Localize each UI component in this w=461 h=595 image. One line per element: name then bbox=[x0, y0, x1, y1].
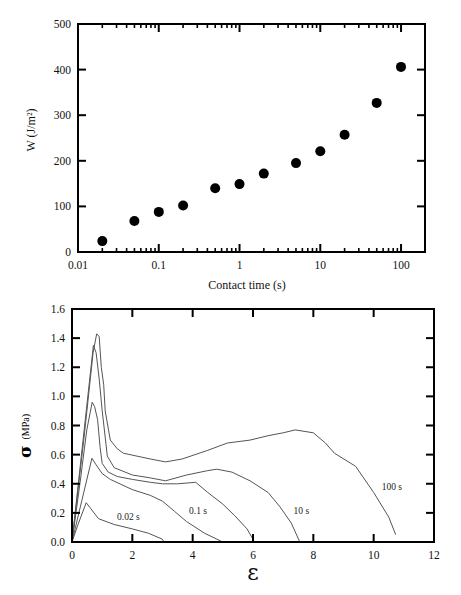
axes-box bbox=[78, 24, 425, 252]
curve-line bbox=[72, 503, 164, 542]
data-point bbox=[396, 62, 406, 72]
data-point bbox=[259, 169, 269, 179]
curve-line bbox=[72, 458, 223, 542]
scatter-series bbox=[97, 62, 406, 246]
curve-label: 0.1 s bbox=[189, 506, 207, 516]
y-tick-label: 1.6 bbox=[51, 303, 66, 315]
x-tick-label: 0.1 bbox=[152, 259, 167, 271]
y-tick-label: 1.4 bbox=[51, 332, 66, 344]
curve-line bbox=[72, 402, 255, 542]
y-tick-label: 0.2 bbox=[51, 507, 66, 519]
y-tick-label: 400 bbox=[54, 64, 72, 76]
x-tick-label: 10 bbox=[315, 259, 327, 271]
x-tick-label: 2 bbox=[129, 549, 135, 561]
axis-ticks bbox=[72, 309, 434, 542]
y-axis-label: σ (MPa) bbox=[15, 414, 35, 458]
curve-label: 0.02 s bbox=[117, 512, 140, 522]
curve-line bbox=[72, 334, 396, 542]
y-tick-label: 500 bbox=[54, 18, 72, 30]
x-tick-label: 10 bbox=[368, 549, 380, 561]
tick-labels: 01002003004005000.010.1110100 bbox=[54, 18, 410, 271]
data-point bbox=[372, 98, 382, 108]
data-point bbox=[129, 216, 139, 226]
data-point bbox=[97, 236, 107, 246]
bottom-chart-stress-strain: 0.02 s0.1 s10 s100 s 0.00.20.40.60.81.01… bbox=[15, 303, 440, 585]
y-axis-label: W (J/m²) bbox=[24, 108, 38, 151]
plot-frame bbox=[78, 24, 425, 252]
axes-box bbox=[72, 309, 434, 542]
data-point bbox=[235, 179, 245, 189]
y-tick-label: 0.4 bbox=[51, 478, 66, 490]
data-point bbox=[178, 201, 188, 211]
x-tick-label: 8 bbox=[310, 549, 316, 561]
axis-ticks bbox=[78, 24, 425, 252]
curve-label: 10 s bbox=[294, 506, 310, 516]
line-series: 0.02 s0.1 s10 s100 s bbox=[72, 334, 402, 542]
y-tick-label: 0.6 bbox=[51, 449, 66, 461]
x-tick-label: 1 bbox=[237, 259, 243, 271]
plot-frame bbox=[72, 309, 434, 542]
x-tick-label: 4 bbox=[190, 549, 196, 561]
data-point bbox=[210, 183, 220, 193]
data-point bbox=[291, 158, 301, 168]
y-axis-label-unit: (MPa) bbox=[20, 414, 32, 440]
top-chart-work-vs-contact-time: 01002003004005000.010.1110100 Contact ti… bbox=[24, 18, 425, 292]
figure: 01002003004005000.010.1110100 Contact ti… bbox=[0, 0, 461, 595]
y-tick-label: 1.0 bbox=[51, 390, 66, 402]
y-tick-label: 0.0 bbox=[51, 536, 66, 548]
y-tick-label: 1.2 bbox=[51, 361, 66, 373]
data-point bbox=[315, 146, 325, 156]
curve-line bbox=[72, 345, 300, 542]
x-axis-label: Contact time (s) bbox=[208, 278, 285, 292]
y-axis-label-symbol: σ bbox=[15, 446, 35, 459]
data-point bbox=[154, 207, 164, 217]
y-tick-label: 0.8 bbox=[51, 420, 66, 432]
x-tick-label: 0 bbox=[69, 549, 75, 561]
y-tick-label: 200 bbox=[54, 155, 72, 167]
x-tick-label: 12 bbox=[428, 549, 440, 561]
curve-label: 100 s bbox=[382, 482, 403, 492]
x-tick-label: 100 bbox=[392, 259, 410, 271]
y-tick-label: 100 bbox=[54, 200, 72, 212]
x-axis-label: ε bbox=[247, 560, 258, 585]
y-tick-label: 0 bbox=[65, 246, 71, 258]
data-point bbox=[340, 130, 350, 140]
x-tick-label: 0.01 bbox=[68, 259, 88, 271]
y-tick-label: 300 bbox=[54, 109, 72, 121]
